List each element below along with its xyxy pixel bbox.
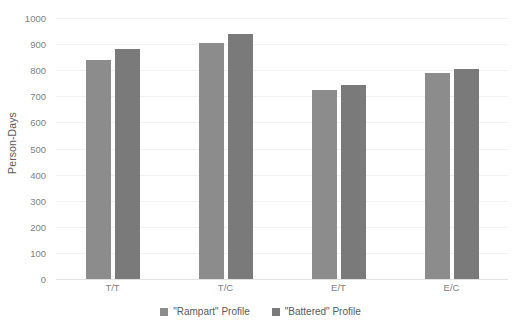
legend-swatch-icon bbox=[272, 308, 280, 316]
y-axis-tick-label: 300 bbox=[30, 195, 46, 206]
chart-legend: "Rampart" Profile"Battered" Profile bbox=[0, 306, 521, 317]
y-axis-tick-label: 0 bbox=[41, 274, 46, 285]
y-axis-tick-label: 900 bbox=[30, 39, 46, 50]
y-axis-tick-label: 1000 bbox=[25, 13, 46, 24]
y-axis-tick-labels: 01002003004005006007008009001000 bbox=[10, 18, 52, 279]
x-axis-tick-labels: T/TT/CE/TE/C bbox=[56, 282, 508, 300]
x-axis-tick-label: E/T bbox=[331, 282, 346, 293]
legend-item[interactable]: "Rampart" Profile bbox=[160, 306, 250, 317]
bar[interactable] bbox=[312, 90, 337, 279]
bar-group bbox=[86, 18, 140, 279]
y-axis-tick-label: 400 bbox=[30, 169, 46, 180]
bar[interactable] bbox=[341, 85, 366, 279]
y-axis-tick-label: 200 bbox=[30, 221, 46, 232]
legend-item-label: "Rampart" Profile bbox=[173, 306, 250, 317]
x-axis-tick-label: T/T bbox=[105, 282, 119, 293]
bar[interactable] bbox=[228, 34, 253, 279]
y-axis-tick-label: 100 bbox=[30, 247, 46, 258]
bar[interactable] bbox=[454, 69, 479, 279]
legend-swatch-icon bbox=[160, 308, 168, 316]
x-axis-tick-label: T/C bbox=[218, 282, 233, 293]
y-axis-tick-label: 500 bbox=[30, 143, 46, 154]
bar[interactable] bbox=[115, 49, 140, 279]
bar[interactable] bbox=[199, 43, 224, 279]
bar-group bbox=[425, 18, 479, 279]
bar-group bbox=[199, 18, 253, 279]
bar[interactable] bbox=[425, 73, 450, 279]
bar-chart: Person-Days 0100200300400500600700800900… bbox=[0, 0, 521, 335]
y-axis-tick-label: 800 bbox=[30, 65, 46, 76]
y-axis-tick-label: 600 bbox=[30, 117, 46, 128]
legend-item[interactable]: "Battered" Profile bbox=[272, 306, 361, 317]
bar-group bbox=[312, 18, 366, 279]
gridline bbox=[56, 279, 508, 280]
bars-layer bbox=[56, 18, 508, 279]
y-axis-tick-label: 700 bbox=[30, 91, 46, 102]
plot-area bbox=[56, 18, 508, 279]
bar[interactable] bbox=[86, 60, 111, 279]
legend-item-label: "Battered" Profile bbox=[285, 306, 361, 317]
x-axis-tick-label: E/C bbox=[444, 282, 460, 293]
